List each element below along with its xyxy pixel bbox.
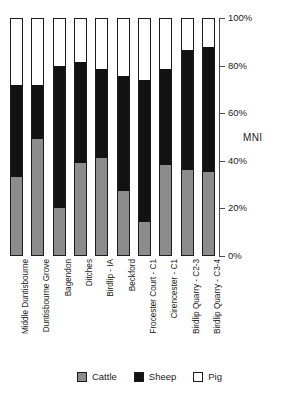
x-axis-label-3: Bagendon — [53, 259, 66, 359]
x-axis-label-text: Birdlip - IA — [106, 259, 115, 297]
legend-swatch-sheep — [134, 372, 144, 382]
x-axis-label-5: Birdlip - IA — [95, 259, 108, 359]
legend-swatch-pig — [193, 372, 203, 382]
x-axis-label-10: Birdlip Quarry - C3-4 — [202, 259, 215, 359]
bar-segment-sheep — [75, 62, 86, 163]
x-axis-label-7: Frocester Court - C1 — [138, 259, 151, 359]
y-tick-label: 20% — [228, 204, 247, 214]
chart-legend: CattleSheepPig — [0, 372, 299, 382]
bar-9[interactable] — [181, 18, 194, 256]
bar-2[interactable] — [31, 18, 44, 256]
stacked-bar-chart: 100%80%60%40%20%0% MNI Middle Duntisbour… — [0, 0, 299, 396]
bar-segment-pig — [160, 19, 171, 69]
y-axis-title: MNI — [243, 132, 263, 143]
y-axis-line — [219, 18, 220, 256]
bar-segment-pig — [139, 19, 150, 80]
x-axis-label-8: Cirencester - C1 — [159, 259, 172, 359]
bar-10[interactable] — [202, 18, 215, 256]
bar-segment-cattle — [160, 165, 171, 255]
bar-segment-pig — [182, 19, 193, 50]
x-axis-label-text: Birdlip Quarry - C2-3 — [192, 259, 201, 334]
bar-segment-sheep — [203, 47, 214, 172]
legend-item-sheep[interactable]: Sheep — [134, 372, 176, 382]
x-axis-label-text: Beckford — [128, 259, 137, 291]
x-axis-label-text: Birdlip Quarry - C3-4 — [213, 259, 222, 334]
bar-segment-sheep — [182, 50, 193, 170]
bar-segment-pig — [11, 19, 22, 85]
x-axis-label-text: Middle Duntisbourne — [21, 259, 30, 334]
y-tick-mark — [220, 18, 225, 19]
bar-segment-cattle — [11, 177, 22, 255]
plot-area — [10, 18, 215, 256]
y-tick-mark — [220, 208, 225, 209]
bar-segment-sheep — [32, 85, 43, 139]
x-axis-label-6: Beckford — [117, 259, 130, 359]
legend-label: Sheep — [149, 372, 176, 382]
bar-segment-cattle — [182, 170, 193, 255]
y-tick-label: 100% — [228, 13, 252, 23]
bar-segment-cattle — [32, 139, 43, 255]
x-axis-label-text: Frocester Court - C1 — [149, 259, 158, 334]
bar-segment-pig — [96, 19, 107, 69]
bar-7[interactable] — [138, 18, 151, 256]
bar-segment-sheep — [118, 76, 129, 192]
y-tick-label: 80% — [228, 61, 247, 71]
legend-label: Cattle — [92, 372, 117, 382]
bars-container — [10, 18, 215, 256]
bar-4[interactable] — [74, 18, 87, 256]
x-axis-label-4: Ditches — [74, 259, 87, 359]
bar-segment-pig — [75, 19, 86, 61]
bar-segment-cattle — [203, 172, 214, 255]
x-axis-label-2: Duntisbourne Grove — [31, 259, 44, 359]
bar-segment-sheep — [54, 66, 65, 208]
x-axis-label-text: Bagendon — [64, 259, 73, 296]
x-axis-labels: Middle DuntisbourneDuntisbourne GroveBag… — [10, 259, 215, 359]
x-axis-label-text: Ditches — [85, 259, 94, 286]
bar-segment-cattle — [75, 163, 86, 255]
bar-segment-cattle — [118, 191, 129, 255]
bar-segment-sheep — [96, 69, 107, 159]
legend-label: Pig — [208, 372, 222, 382]
bar-5[interactable] — [95, 18, 108, 256]
legend-item-cattle[interactable]: Cattle — [77, 372, 117, 382]
y-tick-label: 40% — [228, 156, 247, 166]
bar-6[interactable] — [117, 18, 130, 256]
bar-3[interactable] — [53, 18, 66, 256]
y-tick-mark — [220, 113, 225, 114]
bar-segment-cattle — [54, 208, 65, 255]
bar-segment-pig — [203, 19, 214, 47]
legend-swatch-cattle — [77, 372, 87, 382]
bar-1[interactable] — [10, 18, 23, 256]
bar-segment-pig — [54, 19, 65, 66]
legend-item-pig[interactable]: Pig — [193, 372, 222, 382]
y-tick-mark — [220, 66, 225, 67]
bar-segment-cattle — [139, 222, 150, 255]
x-axis-label-1: Middle Duntisbourne — [10, 259, 23, 359]
bar-segment-sheep — [160, 69, 171, 166]
y-tick-mark — [220, 256, 225, 257]
x-axis-label-text: Duntisbourne Grove — [42, 259, 51, 332]
y-tick-mark — [220, 161, 225, 162]
bar-segment-pig — [118, 19, 129, 76]
x-axis-label-9: Birdlip Quarry - C2-3 — [181, 259, 194, 359]
y-tick-label: 60% — [228, 108, 247, 118]
bar-segment-sheep — [11, 85, 22, 177]
bar-segment-sheep — [139, 80, 150, 222]
bar-segment-pig — [32, 19, 43, 85]
y-tick-label: 0% — [228, 251, 242, 261]
x-axis-label-text: Cirencester - C1 — [170, 259, 179, 319]
bar-8[interactable] — [159, 18, 172, 256]
bar-segment-cattle — [96, 158, 107, 255]
